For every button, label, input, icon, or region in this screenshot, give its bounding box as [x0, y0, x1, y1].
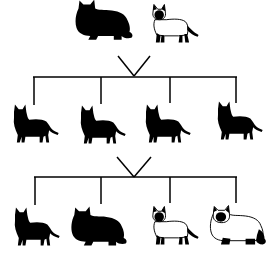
parent-cat-black-longhair [76, 0, 133, 40]
f2-cat-siamese-longhair [210, 206, 265, 245]
cat-inheritance-diagram [0, 0, 278, 265]
f1-cat-black-shorthair-1 [14, 105, 59, 143]
f1-cat-black-shorthair-2 [81, 106, 126, 144]
parent-cat-siamese-shorthair [153, 4, 199, 42]
f2-cat-siamese-shorthair [153, 207, 199, 245]
diagram-canvas [0, 0, 278, 265]
f2-cat-black-longhair [71, 207, 126, 246]
cross-connector-1 [33, 56, 237, 105]
f2-cat-black-shorthair [15, 208, 60, 246]
f1-cat-black-shorthair-4 [218, 102, 263, 140]
cross-connector-2 [34, 157, 237, 205]
f1-cat-black-shorthair-3 [146, 105, 191, 143]
